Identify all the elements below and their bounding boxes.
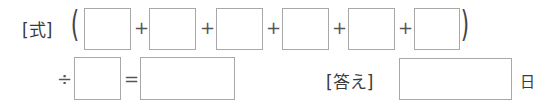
plus-sign: + <box>398 19 413 37</box>
result-box[interactable] <box>140 57 235 100</box>
plus-sign: + <box>266 19 281 37</box>
plus-sign: + <box>200 19 215 37</box>
addend-box-6[interactable] <box>414 8 460 50</box>
close-paren: ) <box>461 6 469 42</box>
unit-label: 日 <box>520 70 535 91</box>
equals-sign: = <box>124 70 139 88</box>
formula-label: [式] <box>22 16 52 41</box>
plus-sign: + <box>332 19 347 37</box>
open-paren: ( <box>71 6 79 42</box>
answer-label: [答え] <box>326 68 373 93</box>
addend-box-2[interactable] <box>149 8 196 50</box>
divisor-box[interactable] <box>74 57 121 100</box>
addend-box-3[interactable] <box>216 8 263 50</box>
addend-box-5[interactable] <box>348 8 395 50</box>
plus-sign: + <box>134 19 149 37</box>
answer-box[interactable] <box>399 58 512 100</box>
addend-box-1[interactable] <box>84 8 131 50</box>
divide-sign: ÷ <box>57 70 72 88</box>
addend-box-4[interactable] <box>282 8 329 50</box>
